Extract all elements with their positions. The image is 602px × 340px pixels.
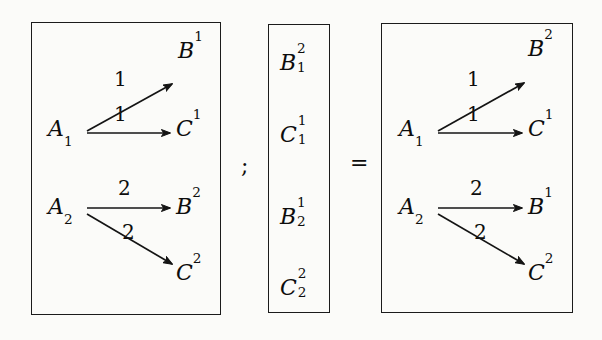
left-group2-edge1-target: B2 [176,196,201,218]
right-group1-source: A1 [399,118,424,140]
right-group2-edge2-label: 2 [474,222,487,242]
left-group1-edge2-label: 1 [114,104,127,124]
left-group2-edge2-label: 2 [122,222,135,242]
left-group1-edge2-target: C1 [176,118,202,140]
left-group2-edge2-target: C2 [176,262,202,284]
right-group2-edge1-target: B1 [528,196,553,218]
separator-semicolon: ; [241,155,248,177]
column-vector-entry-1: B21 [280,48,310,74]
separator-equals: = [350,152,368,174]
right-group1-edge1-target: B2 [528,38,553,60]
right-group2-edge2-target: C2 [528,262,554,284]
left-group2-edge1-label: 2 [118,178,131,198]
left-group1-edge1-target: B1 [178,40,203,62]
left-group2-source: A2 [48,196,73,218]
figure-canvas: A1 1 B1 1 C1 A2 2 B2 2 C2 ; B21 C11 B12 … [0,0,602,340]
left-group1-edge1-label: 1 [114,69,127,89]
right-group1-edge1-label: 1 [467,69,480,89]
left-group1-source: A1 [48,118,73,140]
column-vector-entry-4: C22 [280,273,310,299]
column-vector-entry-2: C11 [280,120,310,146]
right-group2-edge1-label: 2 [470,178,483,198]
right-group2-source: A2 [399,196,424,218]
right-group1-edge2-target: C1 [528,118,554,140]
column-vector-entry-3: B12 [280,202,310,228]
right-group1-edge2-label: 1 [467,104,480,124]
